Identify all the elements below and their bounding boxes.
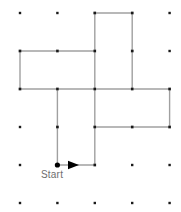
grid-dot [168, 12, 170, 14]
grid-dot [131, 88, 133, 90]
grid-dot [94, 50, 96, 52]
grid-dot [19, 88, 21, 90]
grid-dot [131, 126, 133, 128]
grid-dot [168, 164, 170, 166]
grid-dot [19, 126, 21, 128]
grid-dot [56, 50, 58, 52]
grid-dot [94, 12, 96, 14]
grid-dot [56, 126, 58, 128]
direction-arrow-icon [68, 161, 79, 169]
grid-dot [168, 50, 170, 52]
grid-dot [94, 88, 96, 90]
grid-dot [56, 88, 58, 90]
start-label: Start [41, 170, 63, 180]
grid-dot [19, 50, 21, 52]
grid-dot [94, 126, 96, 128]
grid-dot [131, 50, 133, 52]
grid-dot [19, 202, 21, 204]
grid-dot [131, 202, 133, 204]
grid-dot [131, 164, 133, 166]
grid-dot [168, 126, 170, 128]
start-dot [55, 162, 60, 167]
grid-path-canvas [0, 0, 181, 212]
grid-dot [56, 12, 58, 14]
grid-dot [131, 12, 133, 14]
grid-dot [19, 164, 21, 166]
diagram-stage: Start [0, 0, 181, 212]
grid-dot [168, 88, 170, 90]
grid-dot [94, 164, 96, 166]
grid-dot [19, 12, 21, 14]
grid-dot [56, 202, 58, 204]
grid-dot [168, 202, 170, 204]
grid-dot [94, 202, 96, 204]
